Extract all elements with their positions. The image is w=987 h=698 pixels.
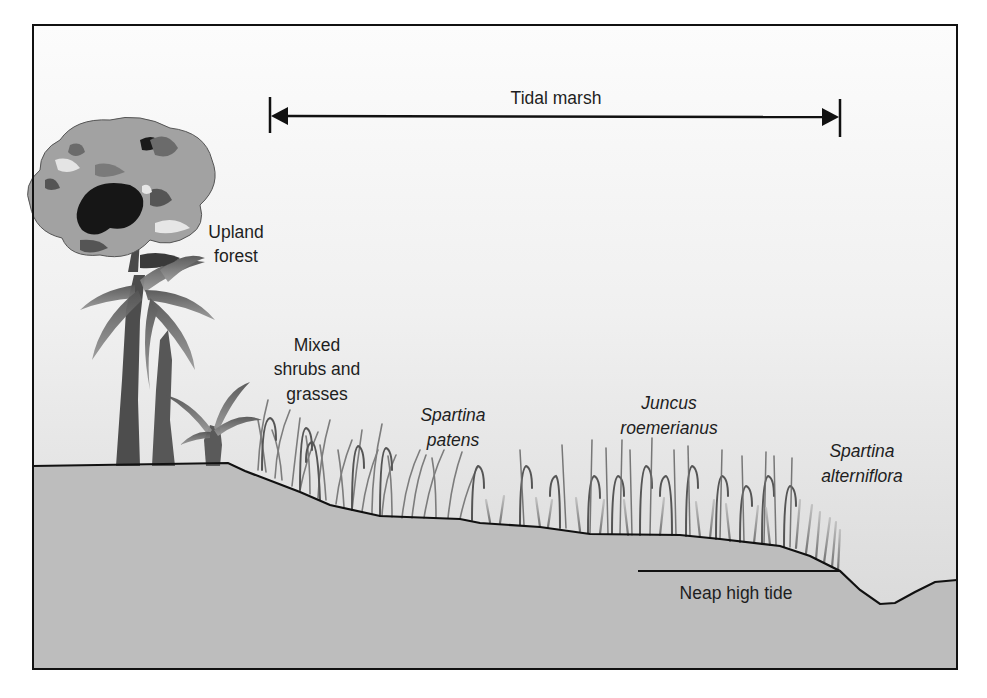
svg-text:Mixed: Mixed: [294, 335, 341, 355]
svg-text:grasses: grasses: [286, 384, 348, 404]
svg-text:Upland: Upland: [208, 222, 263, 242]
svg-text:Spartina: Spartina: [420, 405, 485, 425]
svg-text:Spartina: Spartina: [829, 441, 894, 461]
neap-high-tide-label: Neap high tide: [680, 583, 793, 603]
svg-text:Juncus: Juncus: [640, 393, 697, 413]
tidal-marsh-label: Tidal marsh: [511, 88, 602, 108]
tidal-marsh-diagram: Tidal marsh Upland forest Mixed shrubs a…: [0, 0, 987, 698]
svg-text:patens: patens: [426, 430, 480, 450]
svg-text:forest: forest: [214, 246, 258, 266]
svg-text:shrubs and: shrubs and: [274, 359, 361, 379]
svg-text:roemerianus: roemerianus: [620, 418, 718, 438]
svg-text:alterniflora: alterniflora: [821, 466, 903, 486]
